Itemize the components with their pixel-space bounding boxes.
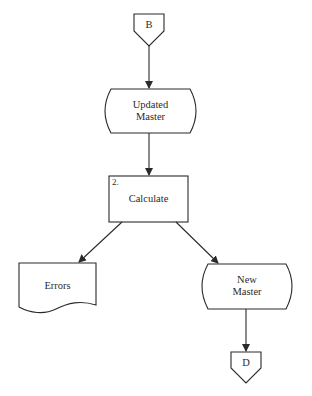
edge-calculate-to-errors bbox=[79, 222, 122, 262]
edge-calculate-to-new-master bbox=[176, 222, 218, 263]
new-master-label: New Master bbox=[201, 274, 293, 298]
updated-master-label: Updated Master bbox=[104, 99, 197, 123]
connector-b-label: B bbox=[134, 19, 164, 31]
calculate-step-number: 2. bbox=[112, 177, 119, 187]
calculate-label: Calculate bbox=[109, 193, 188, 205]
errors-label: Errors bbox=[19, 280, 96, 292]
connector-d-label: D bbox=[231, 357, 261, 369]
